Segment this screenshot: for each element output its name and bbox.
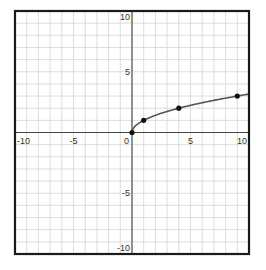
y-tick-label: -10	[117, 243, 130, 253]
y-tick-label: 10	[120, 12, 130, 22]
function-graph: -10-50510105-5-10	[0, 0, 266, 270]
x-tick-label: -5	[69, 136, 77, 146]
x-tick-label: -10	[17, 136, 30, 146]
data-point	[141, 118, 146, 123]
y-tick-label: -5	[122, 188, 130, 198]
data-point	[235, 93, 240, 98]
data-point	[176, 106, 181, 111]
data-points	[129, 93, 240, 135]
x-tick-label: 10	[237, 136, 247, 146]
data-point	[129, 130, 134, 135]
y-tick-label: 5	[125, 67, 130, 77]
x-tick-label: 0	[124, 136, 129, 146]
x-tick-label: 5	[188, 136, 193, 146]
